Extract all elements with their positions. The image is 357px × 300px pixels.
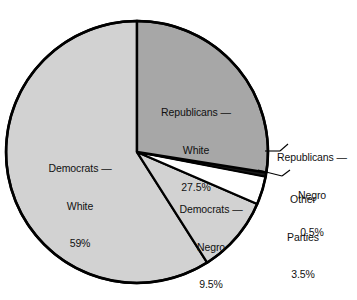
slice-label-line2: White	[148, 144, 244, 157]
slice-label-line2: White	[32, 200, 128, 213]
pie-chart-figure: Republicans — White 27.5% Democrats — Wh…	[0, 0, 357, 300]
slice-label-value: 3.5%	[272, 268, 334, 281]
slice-label-line1: Republicans —	[268, 151, 356, 164]
slice-label-democrats-negro: Democrats — Negro 9.5%	[163, 178, 259, 300]
slice-label-other-parties: Other Parties 3.5%	[272, 168, 334, 300]
slice-label-line2: Parties	[272, 231, 334, 244]
slice-label-line1: Other	[272, 193, 334, 206]
slice-label-value: 9.5%	[163, 278, 259, 291]
slice-label-democrats-white: Democrats — White 59%	[32, 137, 128, 275]
slice-label-value: 59%	[32, 237, 128, 250]
slice-label-line1: Democrats —	[163, 203, 259, 216]
slice-label-line1: Republicans —	[148, 106, 244, 119]
slice-label-line1: Democrats —	[32, 162, 128, 175]
slice-label-line2: Negro	[163, 241, 259, 254]
